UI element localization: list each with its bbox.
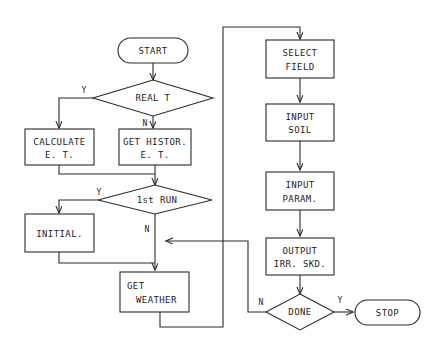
edge-label-first-run-no: N <box>145 225 150 234</box>
node-output-irr-skd[interactable] <box>266 238 334 275</box>
node-start-label: START <box>138 46 167 56</box>
node-get-weather[interactable] <box>120 272 189 312</box>
node-select-field-line1: SELECT <box>283 48 318 58</box>
node-calculate-et-line2: E. T. <box>45 150 74 160</box>
node-stop-label: STOP <box>376 308 399 318</box>
node-output-irr-skd-line2: IRR. SKD. <box>274 259 326 269</box>
node-get-weather-line1: GET <box>127 281 145 291</box>
node-real-t-label: REAL T <box>136 93 171 103</box>
node-get-histor-et-line1: GET HISTOR. <box>123 137 187 147</box>
node-input-soil[interactable] <box>266 104 334 141</box>
node-select-field-line2: FIELD <box>285 62 314 72</box>
node-first-run-label: 1st RUN <box>137 195 178 205</box>
node-input-soil-line2: SOIL <box>288 125 311 135</box>
flowchart-svg: START REAL T CALCULATE E. T. GET HISTOR.… <box>0 0 439 350</box>
node-input-param[interactable] <box>266 172 334 210</box>
edge-label-first-run-yes: Y <box>97 188 102 197</box>
node-input-param-line1: INPUT <box>285 180 314 190</box>
node-done-label: DONE <box>288 307 311 317</box>
node-input-param-line2: PARAM. <box>283 194 318 204</box>
flowchart-canvas: START REAL T CALCULATE E. T. GET HISTOR.… <box>0 0 439 350</box>
node-calculate-et-line1: CALCULATE <box>33 137 85 147</box>
node-initial-label: INITIAL. <box>36 229 83 239</box>
edge-label-done-yes: Y <box>338 296 343 305</box>
edge-label-real-t-yes: Y <box>82 86 87 95</box>
node-input-soil-line1: INPUT <box>285 112 314 122</box>
node-get-histor-et-line2: E. T. <box>140 150 169 160</box>
edge-calculate-to-merge <box>59 165 155 174</box>
edge-label-done-no: N <box>259 298 264 307</box>
edge-label-real-t-no: N <box>143 119 148 128</box>
node-get-weather-line2: WEATHER <box>136 295 177 305</box>
edge-initial-to-merge <box>59 252 155 263</box>
node-select-field[interactable] <box>266 40 334 78</box>
node-output-irr-skd-line1: OUTPUT <box>283 246 318 256</box>
